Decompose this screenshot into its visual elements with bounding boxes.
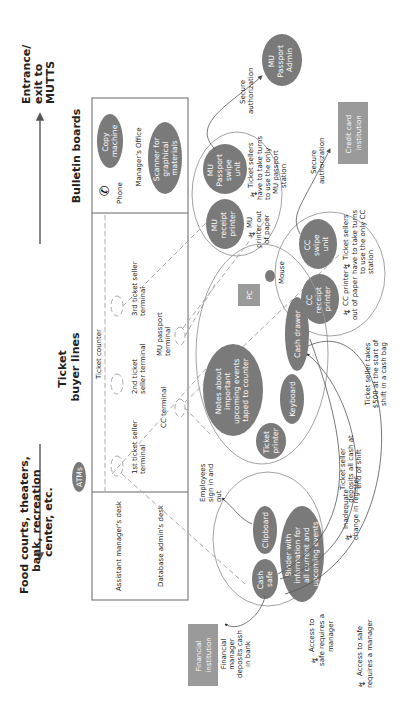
svg-text:Access to saferequires a manag: Access to saferequires a manager bbox=[356, 619, 374, 688]
financial-institution: Financial institution bbox=[188, 624, 218, 686]
svg-text:Scanner for graphical: Scanner for graphical materials bbox=[152, 135, 179, 181]
svg-text:Notes about important: Notes about important upcoming events ta… bbox=[214, 356, 250, 424]
right-direction-label: Entrance/ exit to MUTTS bbox=[20, 41, 57, 104]
assistant-managers-desk: Assistant manager's desk bbox=[115, 500, 123, 591]
svg-text:2nd ticketseller terminal: 2nd ticketseller terminal bbox=[131, 343, 147, 394]
right-direction: Entrance/ exit to MUTTS bbox=[20, 41, 57, 244]
svg-text:ATMs: ATMs bbox=[75, 467, 84, 487]
svg-text:PC: PC bbox=[246, 290, 254, 299]
mu-printer-out-breakdown: ↯ MUprinter outof paper bbox=[246, 210, 271, 248]
svg-text:Cash safe: Cash safe bbox=[256, 568, 274, 589]
phone: ✆ Phone bbox=[97, 182, 124, 204]
employees-sign-label: Employeessign in andout bbox=[199, 463, 223, 502]
bulletin-boards-label: Bulletin boards bbox=[70, 108, 83, 203]
ticket-counter-label: Ticket counter bbox=[95, 329, 103, 380]
left-direction: Food courts, theaters, bank, recreation … bbox=[18, 444, 55, 594]
notes-taped-to-counter: Notes about important upcoming events ta… bbox=[203, 344, 263, 436]
credit-card-institution: Credit card institution bbox=[338, 102, 368, 164]
safe-access-breakdown-2: ↯ Access to saferequires a manager bbox=[356, 619, 374, 688]
svg-text:MUprinter outof paper: MUprinter outof paper bbox=[246, 210, 271, 248]
mu-receipt-printer: MU receipt printer bbox=[206, 199, 244, 249]
mu-secure-auth-label: Secureauthorization bbox=[239, 68, 255, 114]
mu-passport-admin: MU Passport Admin bbox=[262, 34, 302, 86]
cc-swipe-unit: CC swipe unit bbox=[299, 219, 337, 269]
ticket-buyer-lines-label: Ticket buyer lines bbox=[56, 332, 82, 401]
safe-access-breakdown-1: ↯ Access tosafe requires amanager bbox=[308, 614, 335, 666]
phone-icon: ✆ bbox=[97, 185, 112, 196]
financial-manager-label: Financialmanagerdeposits cashin bank bbox=[220, 630, 252, 678]
atms: ATMs bbox=[72, 462, 86, 492]
ticket-printer: Ticket printer bbox=[256, 423, 286, 459]
svg-text:Keyboard: Keyboard bbox=[288, 381, 297, 417]
pc: PC bbox=[238, 284, 260, 306]
svg-text:3rd ticket sellerterminal: 3rd ticket sellerterminal bbox=[131, 261, 147, 316]
svg-text:MU passportterminal: MU passportterminal bbox=[156, 312, 172, 356]
cash-drawer: Cash drawer bbox=[285, 297, 309, 371]
keyboard: Keyboard bbox=[280, 374, 304, 424]
copy-machine: Copy machine bbox=[97, 114, 123, 168]
cc-turns-breakdown: ↯ Ticket sellershave to take turnsto use… bbox=[342, 210, 375, 275]
cash-safe: Cash safe bbox=[252, 559, 278, 599]
svg-text:Ticket printer: Ticket printer bbox=[262, 427, 280, 454]
svg-text:Clipboard: Clipboard bbox=[261, 512, 270, 548]
employees-sign-link bbox=[222, 498, 252, 524]
cc-secure-auth-label: Secureauthorization bbox=[310, 138, 326, 184]
svg-text:Cash drawer: Cash drawer bbox=[293, 309, 302, 358]
terminals: 1st ticket sellerterminal 2nd ticketsell… bbox=[111, 261, 185, 476]
svg-text:CC terminal: CC terminal bbox=[160, 387, 168, 428]
cc-printer-out-breakdown: ↯ CC printerout of paper bbox=[342, 270, 359, 320]
left-direction-label: Food courts, theaters, bank, recreation … bbox=[18, 452, 55, 594]
clipboard: Clipboard bbox=[253, 506, 277, 554]
scanner: Scanner for graphical materials bbox=[148, 122, 182, 194]
physical-model-diagram: Food courts, theaters, bank, recreation … bbox=[0, 0, 415, 724]
database-admins-desk: Database admin's desk bbox=[157, 504, 165, 587]
mu-passport-swipe-unit: MU Passport swipe unit bbox=[203, 144, 247, 194]
takes-500-label: Ticket seller takes$500 at the start ofs… bbox=[364, 339, 388, 408]
svg-text:Mouse: Mouse bbox=[278, 261, 286, 284]
svg-text:1st ticket sellerterminal: 1st ticket sellerterminal bbox=[131, 420, 147, 474]
managers-office-label: Manager's Office bbox=[135, 128, 143, 187]
svg-text:Phone: Phone bbox=[116, 182, 124, 204]
